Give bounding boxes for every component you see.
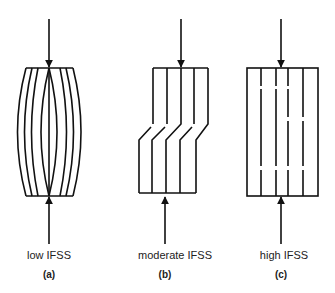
fiber	[139, 68, 153, 193]
tag-a: (a)	[34, 269, 64, 280]
fiber	[152, 68, 167, 193]
fiber	[166, 68, 181, 193]
fiber	[60, 68, 67, 196]
caption-c: high IFSS	[244, 249, 324, 261]
fiber	[41, 68, 49, 196]
fiber	[196, 68, 208, 193]
caption-a: low IFSS	[9, 249, 89, 261]
fiber	[180, 68, 194, 193]
caption-b: moderate IFSS	[130, 249, 220, 261]
fiber	[32, 68, 39, 196]
tag-b: (b)	[150, 269, 180, 280]
panel-b	[139, 19, 208, 244]
specimen-outline	[247, 68, 318, 196]
panel-a	[18, 19, 82, 244]
panel-c	[247, 19, 318, 244]
fiber	[49, 68, 57, 196]
tag-c: (c)	[266, 269, 296, 280]
